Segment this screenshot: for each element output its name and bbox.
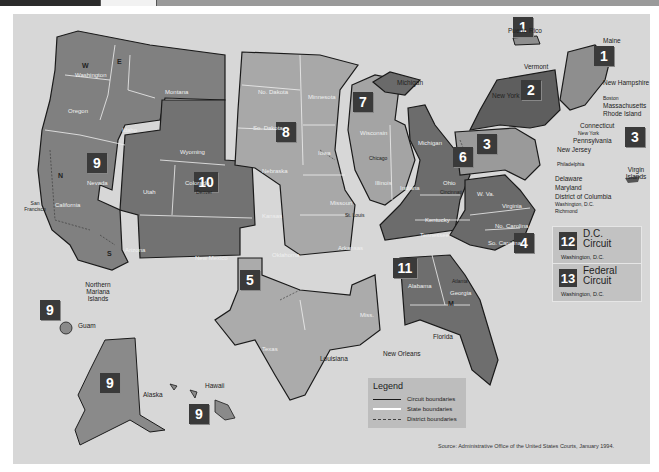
label-chicago: Chicago [369, 155, 387, 161]
label-st-louis: St. Louis [345, 212, 364, 218]
label-new-york: New York [492, 92, 519, 99]
state-label-virginia: Virginia [502, 203, 522, 209]
state-label-idaho: Idaho [122, 127, 137, 133]
district-letter-e: E [117, 58, 122, 65]
legend-swatch-solid-dark [373, 399, 401, 400]
circuit-badge-5: 5 [240, 270, 260, 290]
label-louisiana: Louisiana [320, 355, 348, 362]
circuit-badge-11: 11 [393, 258, 417, 278]
legend-title: Legend [373, 381, 403, 391]
state-label-arizona: Arizona [125, 247, 145, 253]
label-boston: Boston [603, 95, 619, 101]
label-northern-mariana-islands: Northern Mariana Islands [78, 281, 118, 302]
state-label-so-dakota: So. Dakota [253, 125, 283, 131]
state-label-kansas: Kansas [262, 213, 282, 219]
legend-item-district: District boundaries [373, 416, 457, 422]
state-label-alabama: Alabama [408, 283, 432, 289]
circuit-badge-9-marianas: 9 [40, 300, 60, 320]
district-letter-w: W [82, 62, 89, 69]
label-district-of-columbia: District of Columbia [555, 193, 611, 200]
legend: Legend Circuit boundaries State boundari… [368, 378, 466, 428]
state-label-utah: Utah [143, 189, 156, 195]
circuit-badge-9-alaska: 9 [100, 373, 120, 393]
circuit-badge-7: 7 [353, 92, 373, 112]
puerto-rico-shape [513, 36, 540, 45]
label-michigan-up: Michigan [397, 79, 423, 86]
circuit-2-region [470, 70, 560, 130]
label-maryland: Maryland [555, 184, 582, 191]
label-philadelphia: Philadelphia [557, 161, 584, 167]
label-new-jersey: New Jersey [557, 146, 591, 153]
state-label-kentucky: Kentucky [425, 217, 450, 223]
guam-shape [60, 322, 72, 334]
label-cincinnati: Cincinnati [440, 189, 462, 195]
label-rhode-island: Rhode Island [603, 110, 641, 117]
state-label-so-carolina: So. Carolina [488, 240, 521, 246]
federal-circuit-number: 13 [559, 269, 577, 287]
state-label-michigan: Michigan [418, 140, 442, 146]
district-letter-n: N [58, 172, 63, 179]
state-label-missouri: Missouri [330, 200, 352, 206]
label-alaska: Alaska [143, 391, 163, 398]
legend-label-circuit: Circuit boundaries [407, 396, 455, 402]
label-richmond: Richmond [555, 208, 578, 214]
state-label-wisconsin: Wisconsin [360, 130, 387, 136]
label-vermont: Vermont [524, 63, 548, 70]
state-label-miss: Miss. [360, 312, 374, 318]
federal-circuit-name: Federal Circuit [583, 266, 617, 286]
state-label-oklahoma: Oklahoma [272, 252, 299, 258]
circuit-badge-6: 6 [453, 147, 473, 167]
state-label-iowa: Iowa [318, 150, 331, 156]
label-denver: Denver [196, 189, 212, 195]
state-label-wyoming: Wyoming [180, 149, 205, 155]
federal-circuit-location: Washington, D.C. [561, 291, 604, 297]
state-label-colorado: Colorado [185, 180, 209, 186]
legend-label-state: State boundaries [407, 406, 452, 412]
state-label-minnesota: Minnesota [308, 94, 336, 100]
dc-circuit-name-line2: Circuit [583, 239, 611, 249]
label-atlanta: Atlanta [452, 278, 468, 284]
legend-item-state: State boundaries [373, 406, 452, 412]
label-puerto-rico: Puerto Rico [508, 27, 542, 34]
federal-circuit-name-line2: Circuit [583, 276, 617, 286]
legend-swatch-solid-white [373, 408, 401, 410]
circuit-badge-2: 2 [521, 80, 541, 100]
state-label-nebraska: Nebraska [262, 168, 288, 174]
dc-circuit-number: 12 [559, 232, 577, 250]
label-virgin-islands: Virgin Islands [621, 166, 651, 180]
federal-circuit-box: 13 Federal Circuit Washington, D.C. [552, 263, 642, 302]
label-new-hampshire: New Hampshire [603, 79, 649, 86]
state-label-nevada: Nevada [87, 180, 108, 186]
legend-swatch-dashed [373, 419, 401, 420]
dc-circuit-location: Washington, D.C. [561, 254, 604, 260]
circuit-badge-1-new-england: 1 [594, 46, 614, 66]
state-label-georgia: Georgia [450, 290, 471, 296]
state-label-california: California [55, 202, 80, 208]
label-new-orleans: New Orleans [383, 350, 421, 357]
circuit-10-region [120, 100, 255, 258]
state-label-wva: W. Va. [477, 191, 494, 197]
state-label-tennessee: Tennessee [420, 232, 449, 238]
dc-circuit-name: D.C. Circuit [583, 229, 611, 249]
circuit-badge-9-hawaii: 9 [189, 404, 209, 424]
label-maine: Maine [603, 37, 621, 44]
state-label-washington: Washington [75, 72, 106, 78]
label-san-francisco: San Francisco [20, 200, 50, 212]
label-massachusetts: Massachusetts [603, 102, 646, 109]
state-label-new-mexico: New Mexico [195, 255, 228, 261]
label-pennsylvania: Pennsylvania [573, 137, 612, 144]
label-delaware: Delaware [555, 175, 582, 182]
circuit-badge-3-pa: 3 [477, 134, 497, 154]
circuit-badge-9-nevada: 9 [87, 153, 107, 173]
state-label-no-carolina: No. Carolina [495, 223, 528, 229]
dc-circuit-box: 12 D.C. Circuit Washington, D.C. [552, 226, 642, 265]
source-note: Source: Administrative Office of the Uni… [438, 443, 614, 449]
district-letter-m: M [448, 300, 454, 307]
state-label-oregon: Oregon [68, 108, 88, 114]
label-hawaii: Hawaii [205, 382, 225, 389]
state-label-indiana: Indiana [400, 185, 420, 191]
label-florida: Florida [433, 333, 453, 340]
state-label-montana: Montana [165, 89, 188, 95]
label-new-york-city: New York [578, 130, 599, 136]
state-label-illinois: Illinois [375, 180, 392, 186]
